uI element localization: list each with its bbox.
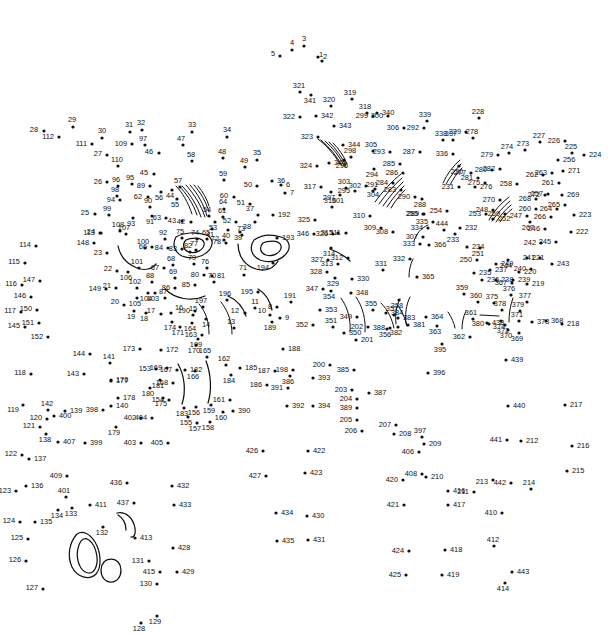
puzzle-dot[interactable] (498, 167, 501, 170)
puzzle-dot[interactable] (355, 406, 358, 409)
puzzle-dot[interactable] (406, 323, 409, 326)
puzzle-dot[interactable] (92, 241, 95, 244)
puzzle-dot[interactable] (328, 363, 331, 366)
puzzle-dot[interactable] (327, 161, 330, 164)
puzzle-dot[interactable] (557, 181, 560, 184)
puzzle-dot[interactable] (451, 152, 454, 155)
puzzle-dot[interactable] (152, 172, 155, 175)
puzzle-dot[interactable] (360, 429, 363, 432)
puzzle-dot[interactable] (170, 484, 173, 487)
puzzle-dot[interactable] (446, 489, 449, 492)
puzzle-dot[interactable] (275, 236, 278, 239)
puzzle-dot[interactable] (570, 444, 573, 447)
puzzle-dot[interactable] (402, 126, 405, 129)
puzzle-dot[interactable] (298, 90, 301, 93)
puzzle-dot[interactable] (465, 245, 468, 248)
puzzle-dot[interactable] (88, 503, 91, 506)
puzzle-dot[interactable] (278, 54, 281, 57)
puzzle-dot[interactable] (132, 501, 135, 504)
puzzle-dot[interactable] (523, 148, 526, 151)
puzzle-dot[interactable] (504, 358, 507, 361)
puzzle-dot[interactable] (367, 391, 370, 394)
puzzle-dot[interactable] (115, 269, 118, 272)
puzzle-dot[interactable] (29, 295, 32, 298)
puzzle-dot[interactable] (286, 386, 289, 389)
puzzle-dot[interactable] (492, 544, 495, 547)
puzzle-dot[interactable] (346, 256, 349, 259)
puzzle-dot[interactable] (255, 158, 258, 161)
puzzle-dot[interactable] (178, 185, 181, 188)
puzzle-dot[interactable] (238, 366, 241, 369)
puzzle-dot[interactable] (201, 305, 204, 308)
puzzle-dot[interactable] (315, 164, 318, 167)
puzzle-dot[interactable] (122, 303, 125, 306)
puzzle-dot[interactable] (130, 142, 133, 145)
puzzle-dot[interactable] (485, 321, 488, 324)
puzzle-dot[interactable] (65, 474, 68, 477)
puzzle-dot[interactable] (175, 570, 178, 573)
puzzle-dot[interactable] (18, 520, 21, 523)
puzzle-dot[interactable] (445, 209, 448, 212)
puzzle-dot[interactable] (105, 180, 108, 183)
puzzle-dot[interactable] (114, 286, 117, 289)
puzzle-dot[interactable] (190, 130, 193, 133)
puzzle-dot[interactable] (371, 308, 374, 311)
puzzle-dot[interactable] (398, 162, 401, 165)
puzzle-dot[interactable] (468, 335, 471, 338)
puzzle-dot[interactable] (26, 537, 29, 540)
puzzle-dot[interactable] (290, 48, 293, 51)
puzzle-dot[interactable] (402, 503, 405, 506)
puzzle-dot[interactable] (163, 237, 166, 240)
puzzle-dot[interactable] (415, 275, 418, 278)
puzzle-dot[interactable] (243, 311, 246, 314)
puzzle-dot[interactable] (422, 442, 425, 445)
puzzle-dot[interactable] (413, 195, 416, 198)
puzzle-dot[interactable] (23, 261, 26, 264)
puzzle-dot[interactable] (440, 573, 443, 576)
puzzle-dot[interactable] (418, 242, 421, 245)
puzzle-dot[interactable] (150, 245, 153, 248)
puzzle-dot[interactable] (349, 155, 352, 158)
puzzle-dot[interactable] (496, 153, 499, 156)
puzzle-dot[interactable] (157, 151, 160, 154)
puzzle-dot[interactable] (207, 214, 210, 217)
puzzle-dot[interactable] (231, 409, 234, 412)
puzzle-dot[interactable] (243, 165, 246, 168)
puzzle-dot[interactable] (278, 316, 281, 319)
puzzle-dot[interactable] (550, 262, 553, 265)
puzzle-dot[interactable] (424, 475, 427, 478)
puzzle-dot[interactable] (190, 159, 193, 162)
puzzle-dot[interactable] (458, 226, 461, 229)
puzzle-dot[interactable] (525, 300, 528, 303)
puzzle-dot[interactable] (38, 425, 41, 428)
puzzle-dot[interactable] (271, 213, 274, 216)
puzzle-dot[interactable] (268, 313, 271, 316)
puzzle-dot[interactable] (306, 449, 309, 452)
puzzle-dot[interactable] (138, 347, 141, 350)
puzzle-dot[interactable] (162, 266, 165, 269)
puzzle-dot[interactable] (442, 228, 445, 231)
puzzle-dot[interactable] (100, 136, 103, 139)
puzzle-dot[interactable] (554, 240, 557, 243)
puzzle-dot[interactable] (306, 538, 309, 541)
puzzle-dot[interactable] (46, 335, 49, 338)
puzzle-dot[interactable] (150, 416, 153, 419)
puzzle-dot[interactable] (41, 587, 44, 590)
puzzle-dot[interactable] (124, 232, 127, 235)
puzzle-dot[interactable] (394, 423, 397, 426)
puzzle-dot[interactable] (107, 213, 110, 216)
puzzle-dot[interactable] (569, 230, 572, 233)
puzzle-dot[interactable] (173, 276, 176, 279)
puzzle-dot[interactable] (332, 124, 335, 127)
puzzle-dot[interactable] (475, 258, 478, 261)
puzzle-dot[interactable] (549, 215, 552, 218)
puzzle-dot[interactable] (181, 143, 184, 146)
puzzle-dot[interactable] (275, 305, 278, 308)
puzzle-dot[interactable] (388, 150, 391, 153)
puzzle-dot[interactable] (443, 548, 446, 551)
puzzle-dot[interactable] (283, 191, 286, 194)
puzzle-dot[interactable] (253, 306, 256, 309)
puzzle-dot[interactable] (303, 471, 306, 474)
puzzle-dot[interactable] (480, 278, 483, 281)
puzzle-dot[interactable] (274, 511, 277, 514)
